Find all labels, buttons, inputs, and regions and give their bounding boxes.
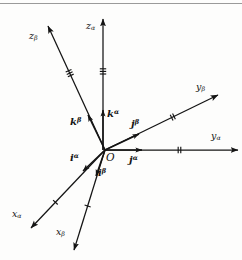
k-alpha-label-base: k xyxy=(107,108,114,119)
j-alpha-label-frame: α xyxy=(133,154,138,162)
x-alpha-axis-line xyxy=(31,150,105,228)
vector-frame-diagram: O zαzβyβyαxαxβ kαkβjβjαiαiβ xyxy=(0,0,242,260)
k-alpha-label: kα xyxy=(107,109,119,119)
j-beta-vector-line xyxy=(105,134,139,150)
i-alpha-label: iα xyxy=(70,153,79,163)
y-beta-label-frame: β xyxy=(201,85,205,92)
axes-group xyxy=(31,19,238,250)
origin-label: O xyxy=(106,152,115,163)
y-beta-label: yβ xyxy=(196,82,205,93)
x-beta-label-frame: β xyxy=(61,230,65,237)
z-alpha-label-frame: α xyxy=(91,24,95,31)
j-alpha-label: jα xyxy=(129,155,138,165)
j-beta-label: jβ xyxy=(131,119,139,129)
i-beta-label-frame: β xyxy=(102,167,106,175)
x-alpha-label: xα xyxy=(12,209,22,220)
z-beta-label-frame: β xyxy=(34,34,38,41)
k-alpha-label-frame: α xyxy=(114,108,119,116)
z-beta-label: zβ xyxy=(29,31,38,42)
k-beta-label-base: k xyxy=(70,116,77,127)
k-beta-label: kβ xyxy=(70,117,81,127)
x-alpha-label-frame: α xyxy=(17,212,21,219)
x-beta-label: xβ xyxy=(56,227,65,238)
k-beta-label-frame: β xyxy=(77,116,81,124)
z-alpha-label: zα xyxy=(86,21,95,32)
i-alpha-label-frame: α xyxy=(74,152,79,160)
y-alpha-label: yα xyxy=(211,131,221,142)
j-beta-label-frame: β xyxy=(135,118,139,126)
y-alpha-label-frame: α xyxy=(216,134,220,141)
i-beta-label: iβ xyxy=(98,168,106,178)
